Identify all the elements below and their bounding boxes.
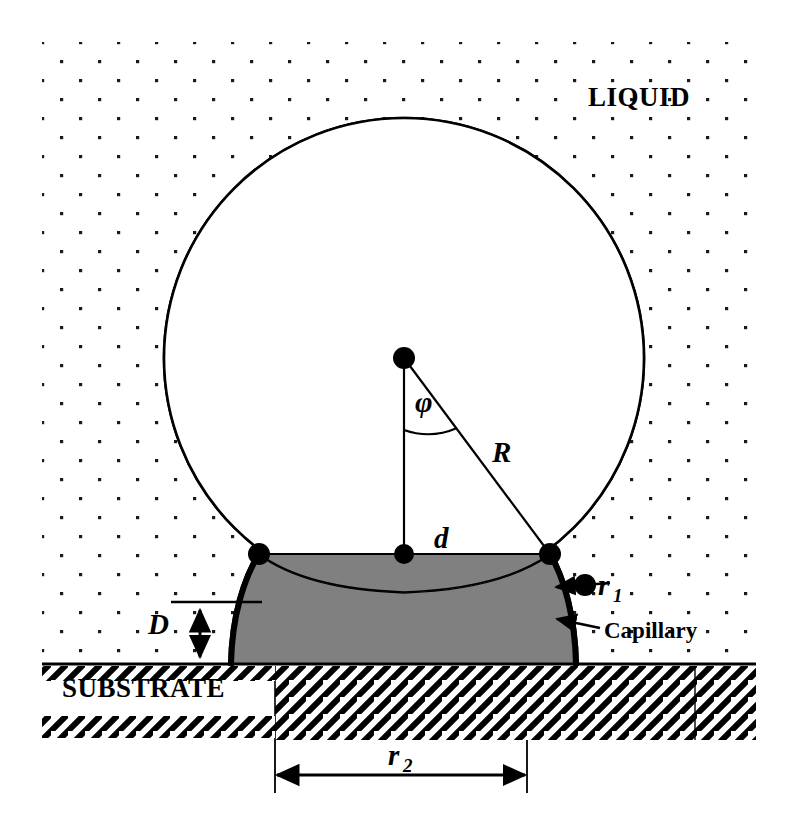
r1-marker-dot xyxy=(574,574,596,596)
meniscus-r1-label: r xyxy=(598,569,610,601)
capillary-bridge-diagram: SUBSTRATE LIQUID φ R d D r 1 xyxy=(0,0,804,832)
liquid-label: LIQUID xyxy=(588,82,690,112)
meniscus-r1-subscript: 1 xyxy=(613,585,623,606)
contact-r2-label: r xyxy=(388,739,400,771)
substrate-hatch-block xyxy=(275,666,756,740)
gap-D-label: D xyxy=(147,608,169,640)
contact-r2-dimension: r 2 xyxy=(275,739,527,793)
distance-d-label: d xyxy=(434,522,449,554)
angle-phi-label: φ xyxy=(415,385,433,418)
capillary-label: Capillary xyxy=(604,618,698,643)
figure-root: SUBSTRATE LIQUID φ R d D r 1 xyxy=(0,0,804,832)
substrate-label: SUBSTRATE xyxy=(62,673,225,703)
contact-point-right-dot xyxy=(539,543,561,565)
base-center-dot xyxy=(394,544,414,564)
substrate-hatch-strip-bottom xyxy=(42,716,275,738)
substrate-region: SUBSTRATE xyxy=(42,664,756,740)
sphere-center-dot xyxy=(393,347,415,369)
contact-point-left-dot xyxy=(248,543,270,565)
radius-R-label: R xyxy=(491,436,511,468)
contact-r2-subscript: 2 xyxy=(402,755,413,776)
